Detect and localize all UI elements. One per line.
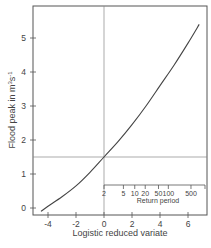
return-period-tick-label: 20 xyxy=(141,190,149,197)
y-tick-label: 0 xyxy=(21,203,26,213)
return-period-tick-label: 50 xyxy=(155,190,163,197)
plot-frame xyxy=(33,6,207,215)
return-period-tick-label: 100 xyxy=(162,190,174,197)
y-tick-label: 4 xyxy=(21,67,26,77)
x-tick-label: -4 xyxy=(44,219,52,229)
flood-peak-curve xyxy=(41,24,199,211)
y-tick-label: 2 xyxy=(21,135,26,145)
y-axis-title: Flood peak in m3s-1 xyxy=(7,71,17,149)
y-tick-label: 1 xyxy=(21,169,26,179)
y-axis-title-main: Flood peak in m xyxy=(7,85,17,149)
flood-frequency-chart: 012345 -4-20246 25102050100500Return per… xyxy=(0,0,211,248)
y-tick-label: 3 xyxy=(21,101,26,111)
y-tick-label: 5 xyxy=(21,33,26,43)
reference-lines xyxy=(33,6,207,215)
return-period-title: Return period xyxy=(137,197,180,205)
y-axis-title-sup2: -1 xyxy=(7,71,13,77)
return-period-tick-label: 2 xyxy=(102,190,106,197)
y-axis: 012345 xyxy=(21,33,36,213)
return-period-tick-label: 5 xyxy=(121,190,125,197)
return-period-tick-label: 500 xyxy=(185,190,197,197)
x-axis-title: Logistic reduced variate xyxy=(72,228,167,238)
return-period-tick-label: 10 xyxy=(131,190,139,197)
return-period-axis: 25102050100500Return period xyxy=(102,185,205,205)
x-tick-label: 6 xyxy=(186,219,191,229)
